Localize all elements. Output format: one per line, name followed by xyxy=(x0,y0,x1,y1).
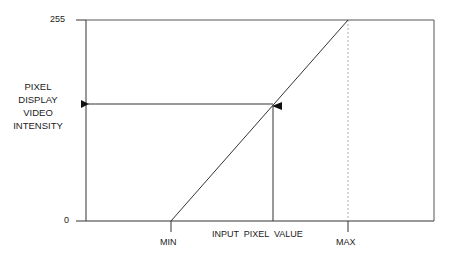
transfer-line xyxy=(171,20,348,221)
y-axis-label-line: DISPLAY xyxy=(2,93,74,106)
y-tick-255-label: 255 xyxy=(50,14,65,25)
y-tick-0-label: 0 xyxy=(64,215,69,226)
x-axis-label: INPUT PIXEL VALUE xyxy=(212,229,303,240)
y-axis-label-line: VIDEO xyxy=(2,106,74,119)
y-axis-label-line: INTENSITY xyxy=(2,119,74,132)
x-tick-max-label: MAX xyxy=(336,237,356,248)
x-tick-min-label: MIN xyxy=(160,237,177,248)
y-axis-label-line: PIXEL xyxy=(2,80,74,93)
y-axis-label: PIXEL DISPLAY VIDEO INTENSITY xyxy=(2,80,74,132)
